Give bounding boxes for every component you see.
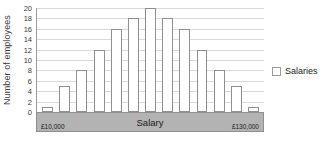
y-axis-tick: 2 xyxy=(28,97,32,106)
legend: Salaries xyxy=(272,66,318,76)
y-axis-tick-labels: 02468101214161820 xyxy=(14,8,34,112)
bars-layer xyxy=(37,8,264,112)
y-axis-tick: 0 xyxy=(28,108,32,117)
bar-slot xyxy=(245,8,262,112)
y-axis-title-label: Number of employees xyxy=(2,15,12,105)
bar[interactable] xyxy=(162,18,173,112)
bar[interactable] xyxy=(128,18,139,112)
bar-slot xyxy=(142,8,159,112)
y-axis-tick: 4 xyxy=(28,87,32,96)
bar-slot xyxy=(90,8,107,112)
y-axis-tick: 18 xyxy=(24,14,32,23)
plot-area xyxy=(36,8,264,112)
bar[interactable] xyxy=(76,70,87,112)
y-axis-tick: 10 xyxy=(24,56,32,65)
bar-slot xyxy=(193,8,210,112)
bar[interactable] xyxy=(59,86,70,112)
legend-label-salaries: Salaries xyxy=(285,66,318,76)
bar[interactable] xyxy=(145,8,156,112)
legend-swatch-salaries[interactable] xyxy=(272,67,281,76)
bar[interactable] xyxy=(231,86,242,112)
y-axis-tick: 16 xyxy=(24,24,32,33)
bar-slot xyxy=(108,8,125,112)
y-axis-title: Number of employees xyxy=(0,0,14,120)
x-axis-max-label: £130,000 xyxy=(232,123,259,130)
bar-slot xyxy=(73,8,90,112)
bar-chart: Number of employees 02468101214161820 £1… xyxy=(0,0,332,150)
bar[interactable] xyxy=(94,50,105,112)
y-axis-tick: 14 xyxy=(24,35,32,44)
x-axis-title: Salary xyxy=(37,117,263,128)
bar[interactable] xyxy=(179,29,190,112)
bar-slot xyxy=(159,8,176,112)
bar-slot xyxy=(125,8,142,112)
y-axis-tick: 8 xyxy=(28,66,32,75)
bar-slot xyxy=(56,8,73,112)
bar[interactable] xyxy=(214,70,225,112)
bar-slot xyxy=(176,8,193,112)
x-axis-band: £10,000 Salary £130,000 xyxy=(36,112,264,132)
bar-slot xyxy=(211,8,228,112)
y-axis-tick: 12 xyxy=(24,45,32,54)
y-axis-tick: 6 xyxy=(28,76,32,85)
bar-slot xyxy=(39,8,56,112)
y-axis-tick: 20 xyxy=(24,4,32,13)
bar-slot xyxy=(228,8,245,112)
bar[interactable] xyxy=(111,29,122,112)
bar[interactable] xyxy=(197,50,208,112)
